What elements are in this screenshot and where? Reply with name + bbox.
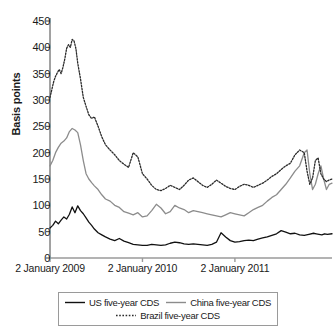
series-line-brazil (50, 39, 332, 190)
y-tick-label: 100 (20, 199, 50, 211)
x-tick-label: 2 January 2011 (201, 262, 270, 274)
x-axis-tick-labels: 2 January 20092 January 20102 January 20… (0, 262, 335, 282)
line-chart-svg (0, 0, 335, 285)
y-tick-label: 50 (20, 226, 50, 238)
legend-item-brazil: Brazil five-year CDS (116, 310, 220, 321)
legend-line-brazil-icon (116, 312, 136, 319)
y-tick-label: 250 (20, 120, 50, 132)
y-tick-label: 350 (20, 68, 50, 80)
chart-plot-area: Basis points 050100150200250300350400450… (0, 0, 335, 285)
y-axis-tick-labels: 050100150200250300350400450 (18, 0, 50, 285)
x-tick-label: 2 January 2009 (15, 262, 85, 274)
y-tick-label: 400 (20, 41, 50, 53)
legend-row-top: US five-year CDS China five-year CDS (63, 296, 273, 309)
y-tick-label: 200 (20, 147, 50, 159)
legend-row-bottom: Brazil five-year CDS (63, 309, 273, 322)
legend-label-brazil: Brazil five-year CDS (140, 310, 220, 321)
y-tick-label: 150 (20, 173, 50, 185)
x-tick-label: 2 January 2010 (108, 262, 178, 274)
legend-item-china: China five-year CDS (166, 297, 271, 308)
legend-label-china: China five-year CDS (190, 297, 271, 308)
legend-label-us: US five-year CDS (89, 297, 159, 308)
legend-line-us-icon (65, 299, 85, 306)
cds-spread-chart-figure: Basis points 050100150200250300350400450… (0, 0, 335, 334)
legend-line-china-icon (166, 299, 186, 306)
legend-item-us: US five-year CDS (65, 297, 159, 308)
y-tick-label: 300 (20, 94, 50, 106)
y-tick-label: 450 (20, 15, 50, 27)
series-line-china (50, 128, 332, 216)
chart-legend: US five-year CDS China five-year CDS Bra… (58, 292, 278, 326)
